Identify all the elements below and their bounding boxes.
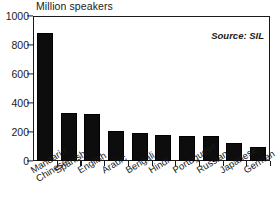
bar-chart: Million speakers Source: SIL 02004006008… [0, 0, 279, 215]
x-axis: MandarinChineseSpanishEnglishArabicBenga… [0, 0, 279, 215]
x-axis-tick-mark [270, 161, 271, 166]
